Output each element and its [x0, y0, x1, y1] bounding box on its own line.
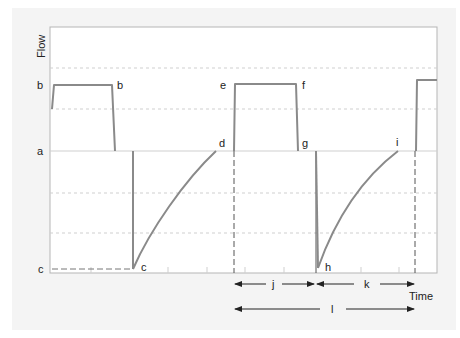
- y-axis-label: Flow: [35, 35, 47, 58]
- point-label-d: d: [219, 137, 225, 149]
- point-label-b: b: [117, 79, 123, 91]
- flow-diagram: Flow b a c b c d e f g h i j k l Time: [0, 0, 460, 338]
- point-label-c: c: [141, 261, 147, 273]
- interval-label-k: k: [364, 278, 370, 290]
- point-label-h: h: [325, 261, 331, 273]
- point-label-i: i: [396, 136, 398, 148]
- x-axis-label: Time: [409, 290, 433, 302]
- y-label-b: b: [37, 79, 43, 91]
- y-label-a: a: [37, 145, 44, 157]
- point-label-g: g: [302, 137, 308, 149]
- interval-label-j: j: [271, 278, 274, 290]
- y-label-c: c: [38, 263, 44, 275]
- point-label-e: e: [220, 79, 226, 91]
- plot-frame: [50, 27, 437, 273]
- interval-arrows: [235, 284, 414, 309]
- interval-label-l: l: [331, 303, 333, 315]
